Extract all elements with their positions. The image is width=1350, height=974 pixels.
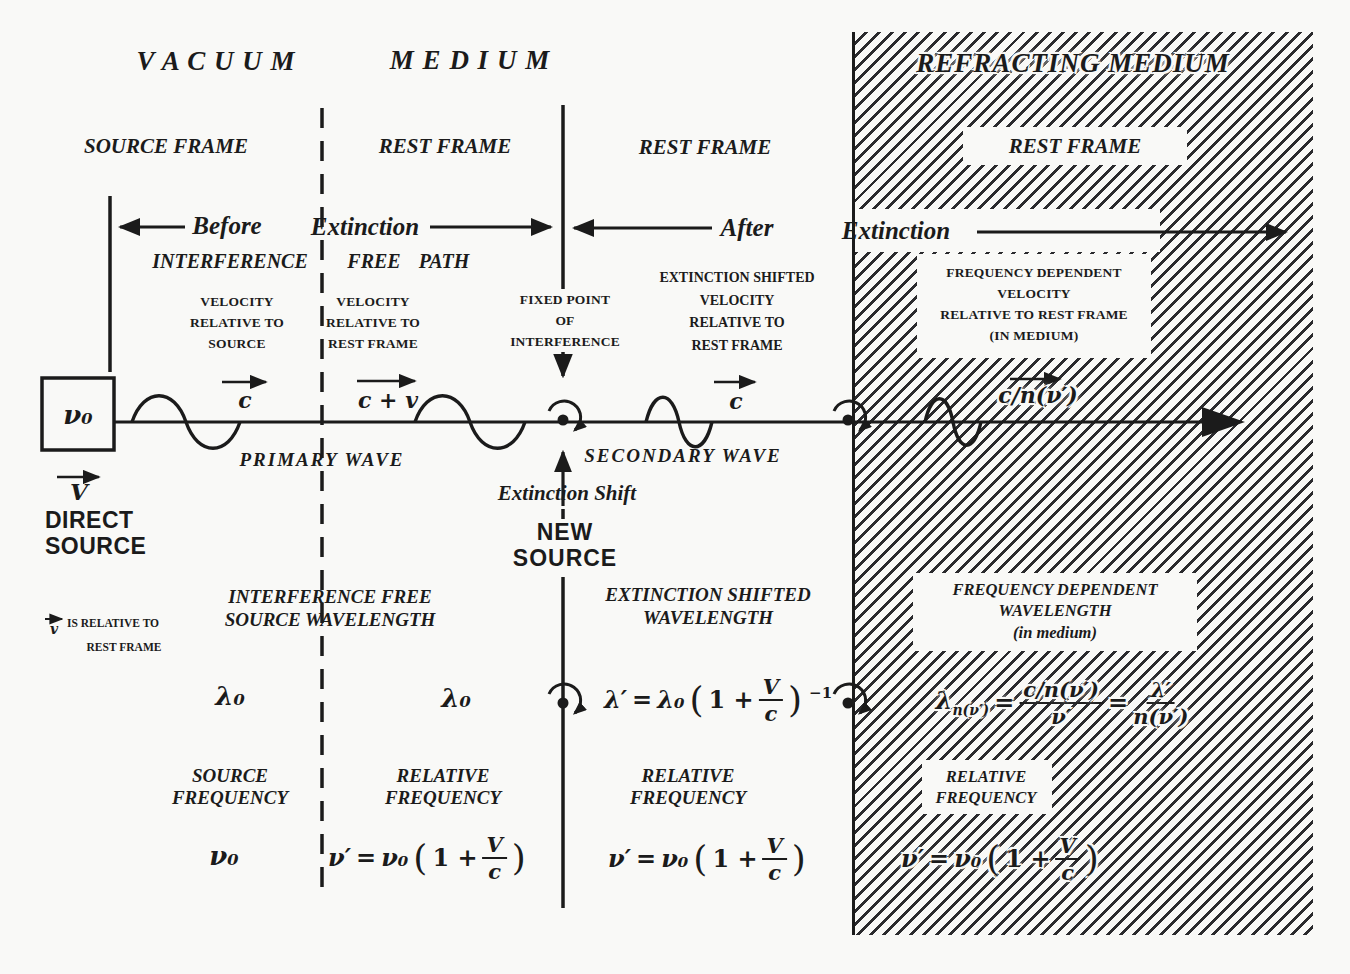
nu2-eq: = [356,844,376,872]
f2-line2: FREQUENCY [385,787,501,809]
lambda4-eq1: = [994,689,1014,717]
nu4-one-plus: 1 + [1005,845,1050,873]
nu3-eq: = [636,845,656,873]
frequency-dependent-wavelength-title: FREQUENCY DEPENDENT WAVELENGTH (in mediu… [952,579,1157,643]
lambda0-vacuum: λ₀ [215,681,245,712]
medium-title: M E D I U M [390,45,550,77]
lambda3-close-paren: ) [788,686,802,715]
frequency-dependent-velocity-label: FREQUENCY DEPENDENT VELOCITY RELATIVE TO… [940,263,1128,347]
vel2-line3: REST FRAME [326,333,420,354]
nu4-fraction: V c [1056,835,1080,883]
speed-c-over-n-label: c/n(ν′) [998,383,1077,409]
extinction-shifted-velocity-label: EXTINCTION SHIFTED VELOCITY RELATIVE TO … [659,267,814,358]
new-source-line1: NEW [513,520,617,546]
speed-c-plus-v-label: c + v [358,388,418,414]
lambda0-medium: λ₀ [441,683,471,714]
rest-frame-label-medium: REST FRAME [379,134,511,159]
w3-title-line2: WAVELENGTH [605,607,810,630]
lambda3-frac-den: c [764,701,777,724]
w2-title-line2: SOURCE WAVELENGTH [225,609,436,632]
nu-prime-formula-medium2: ν′ = ν₀ ( 1 + V c ) [608,835,806,883]
vel4-line3: RELATIVE TO REST FRAME [940,305,1128,326]
lambda-prime-formula: λ′ = λ₀ ( 1 + V c ) −1 [604,676,832,724]
f3-line1: RELATIVE [630,765,746,787]
relative-frequency-title-medium: RELATIVE FREQUENCY [385,765,501,809]
refracting-medium-title: REFRACTING MEDIUM [916,48,1229,80]
w4-title-line3: (in medium) [952,622,1157,643]
fixed-point-line2: OF [510,311,620,332]
velocity-relative-to-source-label: VELOCITY RELATIVE TO SOURCE [190,292,284,355]
nu2-frac-num: V [483,834,507,859]
fixed-point-line1: FIXED POINT [510,290,620,311]
nu2-fraction: V c [483,834,507,882]
nu2-coef: ν₀ [381,844,408,872]
lambda4-fraction1: c/n(ν′) ν′ [1019,679,1103,727]
nu-prime-formula-refracting: ν′ = ν₀ ( 1 + V c ) [901,835,1099,883]
lambda3-exponent: −1 [809,685,832,703]
nu4-eq: = [929,845,949,873]
vel4-line4: (IN MEDIUM) [940,326,1128,347]
lambda4-frac1-num: c/n(ν′) [1019,679,1103,704]
vel4-line2: VELOCITY [940,284,1128,305]
vacuum-title: V A C U U M [137,46,296,78]
before-label: Before [192,211,261,241]
w4-title-line1: FREQUENCY DEPENDENT [952,579,1157,600]
rotation-marker-interference-axis [549,401,581,430]
vel3-line1: EXTINCTION SHIFTED [659,267,814,290]
vel3-line2: VELOCITY [659,289,814,312]
extinction-shifted-wavelength-title: EXTINCTION SHIFTED WAVELENGTH [605,584,810,630]
w2-title-line1: INTERFERENCE FREE [225,586,436,609]
rest-frame-label-medium2: REST FRAME [639,135,771,160]
nu3-coef: ν₀ [661,845,688,873]
primary-wave-label: PRIMARY WAVE [240,449,405,471]
lambda3-open-paren: ( [690,686,704,715]
interference-free-source-wavelength-title: INTERFERENCE FREE SOURCE WAVELENGTH [225,586,436,632]
nu2-close-paren: ) [512,844,526,873]
f1-line1: SOURCE [172,765,288,787]
rest-frame-label-refracting: REST FRAME [1009,134,1141,159]
nu3-frac-den: c [768,860,781,883]
v-note-line2: REST FRAME [87,641,162,655]
lambda4-base: λ [936,686,953,715]
secondary-wave-label: SECONDARY WAVE [584,445,781,467]
relative-frequency-title-medium2: RELATIVE FREQUENCY [630,765,746,809]
direct-source-line1: DIRECT [45,508,146,534]
direct-source-line2: SOURCE [45,534,146,560]
nu3-lhs: ν′ [608,845,631,873]
lambda3-frac-num: V [759,676,783,701]
free-word: FREE [347,250,400,274]
nu2-one-plus: 1 + [432,844,477,872]
lambda4-frac1-den: ν′ [1051,704,1071,727]
nu3-close-paren: ) [792,845,806,874]
extinction-shift-label: Extinction Shift [498,481,636,506]
lambda3-eq: = [632,686,652,714]
source-frequency-symbol: ν₀ [63,400,92,431]
rotation-marker-interference-lower [549,684,581,713]
nu4-close-paren: ) [1085,845,1099,874]
w3-title-line1: EXTINCTION SHIFTED [605,584,810,607]
lambda3-coef: λ₀ [657,686,684,714]
nu3-fraction: V c [763,835,787,883]
vel3-line3: RELATIVE TO [659,312,814,335]
v-note-line1: IS RELATIVE TO [67,617,159,631]
nu2-lhs: ν′ [328,844,351,872]
nu4-coef: ν₀ [954,845,981,873]
wave-secondary [646,397,712,447]
w4-title-line2: WAVELENGTH [952,600,1157,621]
f1-line2: FREQUENCY [172,787,288,809]
vel2-line2: RELATIVE TO [326,313,420,334]
fixed-point-of-interference-label: FIXED POINT OF INTERFERENCE [510,290,620,353]
wave-vacuum [132,396,240,449]
path-word: PATH [419,250,470,274]
lambda4-frac2-num: λ′ [1147,679,1175,704]
lambda4-fraction2: λ′ n(ν′) [1133,679,1188,727]
lambda3-fraction: V c [759,676,783,724]
vel1-line1: VELOCITY [190,292,284,313]
nu2-frac-den: c [488,859,501,882]
extinction-shift-diagram: V A C U U M M E D I U M REFRACTING MEDIU… [0,0,1350,974]
velocity-relative-to-rest-frame-label: VELOCITY RELATIVE TO REST FRAME [326,292,420,355]
speed-c-label-2: c [729,389,742,415]
nu4-open-paren: ( [986,845,1000,874]
new-source-label: NEW SOURCE [513,520,617,572]
vel1-line3: SOURCE [190,333,284,354]
